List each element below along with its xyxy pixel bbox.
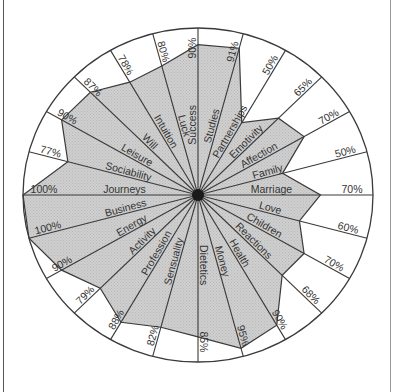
value-label-love: 60%	[337, 219, 360, 236]
value-label-luck: 80%	[155, 40, 172, 63]
value-label-reactions: 68%	[299, 283, 322, 306]
value-label-activity: 79%	[73, 283, 96, 306]
value-label-family: 50%	[333, 143, 356, 160]
value-label-success: 90%	[186, 38, 198, 59]
value-area	[23, 45, 321, 349]
value-polygon	[23, 45, 321, 349]
category-label-dietetics: Dietetics	[198, 245, 210, 285]
value-label-emotivity: 65%	[291, 75, 314, 98]
value-label-journeys: 100%	[31, 183, 58, 195]
value-label-sociability: 77%	[39, 143, 62, 160]
value-label-sensuality: 82%	[144, 324, 161, 347]
center-hub	[192, 189, 204, 201]
value-label-dietetics: 85%	[198, 331, 210, 352]
category-label-journeys: Journeys	[103, 183, 146, 195]
category-label-marriage: Marriage	[251, 183, 293, 195]
value-label-marriage: 70%	[341, 183, 362, 195]
